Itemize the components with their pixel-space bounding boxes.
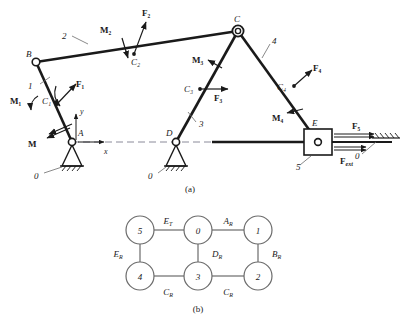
caption-a: (a) xyxy=(185,184,195,194)
force-label-F2: F₂ xyxy=(142,8,150,18)
force-label-Fext: Fext xyxy=(340,156,353,167)
moment-label-M2: M₂ xyxy=(100,25,111,35)
joint-D-pin xyxy=(172,138,179,145)
force-F2-arrow xyxy=(134,22,146,54)
link-number-4: 4 xyxy=(272,36,277,46)
joint-C-inner xyxy=(235,28,240,33)
force-label-F3: F₃ xyxy=(214,93,222,103)
graph-edge-label-ET: ET xyxy=(163,216,174,227)
moment-M1-arc xyxy=(31,96,38,110)
graph-node-label-4: 4 xyxy=(138,272,143,282)
center-label-C2: C₂ xyxy=(131,57,140,67)
link-number-1: 1 xyxy=(28,81,33,91)
leader-link-4 xyxy=(262,44,270,58)
joint-label-B: B xyxy=(26,49,32,59)
caption-b: (b) xyxy=(193,304,204,314)
graph-node-label-3: 3 xyxy=(195,272,201,282)
ground-label-right: 0 xyxy=(355,151,360,161)
ground-label-A: 0 xyxy=(34,171,39,181)
leader-ground-right xyxy=(362,142,376,154)
moment-label-M1: M₁ xyxy=(10,96,21,106)
force-label-F5: F₅ xyxy=(352,121,360,131)
ground-label-D: 0 xyxy=(148,171,153,181)
graph-node-label-0: 0 xyxy=(196,226,201,236)
graph-edge-label-DR: DR xyxy=(211,249,223,260)
center-label-C3: C₃ xyxy=(184,84,193,94)
graph-edge-label-BR: BR xyxy=(272,249,282,260)
force-F1-arrow xyxy=(57,84,76,104)
joint-label-E: E xyxy=(311,118,318,128)
leader-link-2 xyxy=(72,36,88,44)
axis-label-x: x xyxy=(103,147,108,156)
center-label-C4: C₄ xyxy=(277,82,286,92)
graph-node-label-1: 1 xyxy=(256,226,261,236)
force-F4-arrow xyxy=(294,70,312,86)
moment-label-M4: M₄ xyxy=(272,113,283,123)
joint-B-pin xyxy=(32,58,40,66)
force-label-F1: F₁ xyxy=(76,79,84,89)
link-number-2: 2 xyxy=(62,31,67,41)
graph-edge-label-CR-left: CR xyxy=(163,287,173,298)
force-label-F4: F₄ xyxy=(313,63,321,73)
link-number-3: 3 xyxy=(198,119,204,129)
joint-label-C: C xyxy=(234,14,241,24)
center-label-C1: C₁ xyxy=(42,96,51,106)
moment-label-M3: M₃ xyxy=(192,55,203,65)
axis-label-y: y xyxy=(79,107,84,116)
joint-A-pin xyxy=(68,138,75,145)
joint-label-D: D xyxy=(165,128,173,138)
graph-edge-label-CR-right: CR xyxy=(223,287,233,298)
graph-edge-label-ER: ER xyxy=(112,249,123,260)
graph-node-label-2: 2 xyxy=(256,272,261,282)
leader-link-5 xyxy=(300,156,311,165)
ground-support-A xyxy=(44,145,84,173)
figure-root: B C A D E 1 2 3 4 5 0 0 0 C₁ C₂ C₃ C₄ F₁… xyxy=(0,0,413,317)
figure-canvas: B C A D E 1 2 3 4 5 0 0 0 C₁ C₂ C₃ C₄ F₁… xyxy=(0,0,413,317)
joint-E-pin xyxy=(315,139,322,146)
graph-edge-label-AR: AR xyxy=(222,216,233,227)
ground-support-D xyxy=(158,145,188,173)
link-number-5: 5 xyxy=(296,162,301,172)
graph-node-label-5: 5 xyxy=(138,226,143,236)
ground-hatch-right xyxy=(370,133,399,138)
joint-label-A: A xyxy=(77,128,84,138)
moment-label-M: M xyxy=(28,139,37,149)
